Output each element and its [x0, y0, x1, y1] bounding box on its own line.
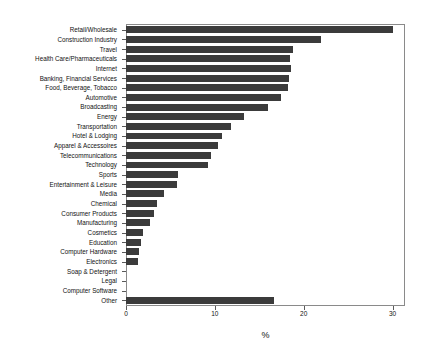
bar-row [126, 122, 405, 132]
bar-row [126, 199, 405, 209]
y-axis-tick-label: Chemical [0, 200, 117, 207]
bar[interactable] [126, 94, 281, 101]
y-axis-tick-label: Telecommunications [0, 152, 117, 159]
bar-row [126, 151, 405, 161]
y-axis-tick-label: Banking, Financial Services [0, 75, 117, 82]
bar-row [126, 64, 405, 74]
y-axis-tick-label: Broadcasting [0, 103, 117, 110]
y-axis-tick-label: Health Care/Pharmaceuticals [0, 55, 117, 62]
bar-row [126, 54, 405, 64]
bar[interactable] [126, 239, 141, 246]
bar[interactable] [126, 104, 268, 111]
bar[interactable] [126, 65, 291, 72]
y-axis-tick-label: Cosmetics [0, 229, 117, 236]
bar[interactable] [126, 142, 218, 149]
bar-row [126, 83, 405, 93]
bar[interactable] [126, 171, 178, 178]
y-axis-tick-label: Soap & Detergent [0, 268, 117, 275]
x-axis-tick-label: 0 [111, 310, 141, 317]
bar-row [126, 73, 405, 83]
bar-series [126, 25, 405, 305]
bar[interactable] [126, 36, 321, 43]
y-axis-category-labels: Retail/WholesaleConstruction IndustryTra… [0, 25, 122, 305]
bar-row [126, 286, 405, 296]
y-axis-tick-label: Sports [0, 171, 117, 178]
bar[interactable] [126, 46, 293, 53]
y-axis-tick-label: Education [0, 239, 117, 246]
bar[interactable] [126, 133, 222, 140]
y-axis-tick-label: Consumer Products [0, 210, 117, 217]
bar[interactable] [126, 113, 244, 120]
bar[interactable] [126, 55, 290, 62]
y-axis-tick-label: Electronics [0, 258, 117, 265]
bar-row [126, 35, 405, 45]
y-axis-tick-label: Apparel & Accessoires [0, 142, 117, 149]
chart-page: Retail/WholesaleConstruction IndustryTra… [0, 0, 430, 360]
bar[interactable] [126, 152, 211, 159]
x-axis-tick-label: 10 [200, 310, 230, 317]
y-axis-tick-label: Energy [0, 113, 117, 120]
bar[interactable] [126, 190, 164, 197]
bar-row [126, 25, 405, 35]
y-axis-tick-label: Internet [0, 65, 117, 72]
bar-row [126, 93, 405, 103]
y-axis-tick-label: Computer Software [0, 287, 117, 294]
bar[interactable] [126, 162, 208, 169]
bar[interactable] [126, 248, 139, 255]
bar[interactable] [126, 123, 231, 130]
y-axis-tick-label: Retail/Wholesale [0, 26, 117, 33]
x-axis-title: % [126, 330, 405, 340]
y-axis-tick-label: Construction Industry [0, 36, 117, 43]
bar-row [126, 44, 405, 54]
y-axis-tick-label: Food, Beverage, Tobacco [0, 84, 117, 91]
bar-row [126, 228, 405, 238]
y-axis-tick-label: Manufacturing [0, 219, 117, 226]
y-axis-tick-label: Hotel & Lodging [0, 132, 117, 139]
bar-row [126, 208, 405, 218]
y-axis-tick-label: Travel [0, 46, 117, 53]
bar[interactable] [126, 210, 154, 217]
bar[interactable] [126, 229, 143, 236]
bar-row [126, 295, 405, 305]
bar-row [126, 102, 405, 112]
bar[interactable] [126, 297, 274, 304]
x-axis-tick-label: 20 [289, 310, 319, 317]
bar-row [126, 131, 405, 141]
y-axis-tick-label: Technology [0, 161, 117, 168]
bar-row [126, 218, 405, 228]
y-axis-tick-label: Transportation [0, 123, 117, 130]
bar[interactable] [126, 258, 138, 265]
y-axis-tick-label: Automotive [0, 94, 117, 101]
bar[interactable] [126, 75, 289, 82]
bar[interactable] [126, 84, 288, 91]
bar-row [126, 266, 405, 276]
bar-row [126, 179, 405, 189]
bar-row [126, 237, 405, 247]
y-axis-tick-label: Media [0, 190, 117, 197]
bar-row [126, 276, 405, 286]
bar-row [126, 160, 405, 170]
bar-row [126, 112, 405, 122]
bar[interactable] [126, 219, 150, 226]
bar[interactable] [126, 200, 157, 207]
x-axis-tick-label: 30 [378, 310, 408, 317]
bar[interactable] [126, 181, 177, 188]
bar-row [126, 247, 405, 257]
y-axis-tick-label: Other [0, 297, 117, 304]
y-axis-tick-label: Entertainment & Leisure [0, 181, 117, 188]
y-axis-tick-label: Computer Hardware [0, 248, 117, 255]
bar[interactable] [126, 26, 393, 33]
bar-row [126, 189, 405, 199]
bar-row [126, 141, 405, 151]
bar-row [126, 257, 405, 267]
y-axis-tick-label: Legal [0, 277, 117, 284]
bar-row [126, 170, 405, 180]
